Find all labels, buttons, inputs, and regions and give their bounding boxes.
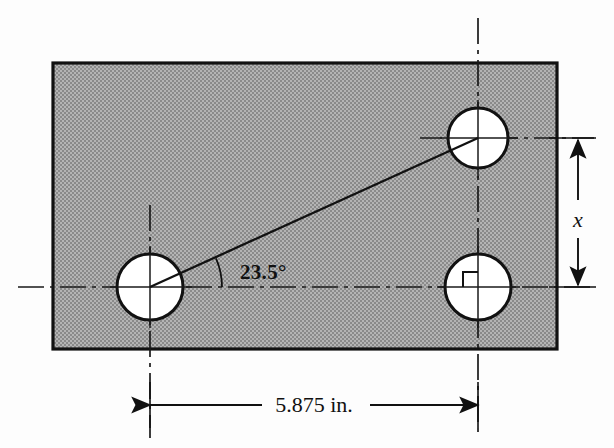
linear-dimension-value-label: 5.875 in. (275, 392, 353, 417)
angle-value-label: 23.5° (240, 260, 287, 284)
linear-dimension-group: 5.875 in. (150, 382, 478, 428)
engineering-drawing-figure: 23.5° 5.875 in. x (0, 0, 614, 448)
technical-drawing-canvas: 23.5° 5.875 in. x (0, 0, 614, 448)
vertical-dimension-value-label: x (572, 207, 583, 232)
